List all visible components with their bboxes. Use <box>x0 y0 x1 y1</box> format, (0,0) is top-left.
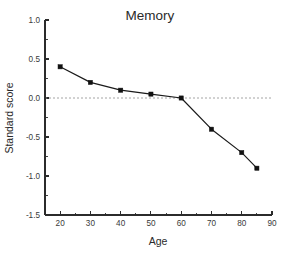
data-point-20 <box>58 65 62 69</box>
x-tick-label: 50 <box>146 219 156 228</box>
data-point-30 <box>88 80 92 84</box>
data-point-40 <box>119 88 123 92</box>
y-tick-label: 0.0 <box>29 94 41 103</box>
x-tick-label: 60 <box>177 219 187 228</box>
y-tick-label: -1.0 <box>26 172 41 181</box>
y-tick-label: 0.5 <box>29 55 41 64</box>
data-point-70 <box>209 127 213 131</box>
x-tick-label: 40 <box>116 219 126 228</box>
data-point-80 <box>240 151 244 155</box>
x-tick-label: 20 <box>56 219 66 228</box>
x-tick-label: 70 <box>207 219 217 228</box>
x-tick-label: 80 <box>237 219 247 228</box>
chart-title: Memory <box>126 8 175 23</box>
x-axis-label: Age <box>149 235 168 247</box>
x-tick-label: 30 <box>86 219 96 228</box>
y-tick-label: -0.5 <box>26 133 41 142</box>
chart-background <box>0 0 284 254</box>
memory-chart: Memory Standard score Age 1.00.50.0-0.5-… <box>0 0 284 254</box>
data-point-60 <box>179 96 183 100</box>
x-tick-label: 90 <box>267 219 277 228</box>
chart-canvas: Memory Standard score Age 1.00.50.0-0.5-… <box>0 0 284 254</box>
y-axis-label: Standard score <box>3 82 15 153</box>
y-tick-label: -1.5 <box>26 211 41 220</box>
data-point-50 <box>149 92 153 96</box>
data-point-85 <box>255 166 259 170</box>
y-tick-label: 1.0 <box>29 16 41 25</box>
